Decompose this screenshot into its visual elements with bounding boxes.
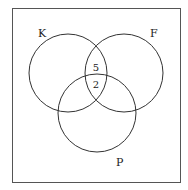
set-f-circle	[85, 34, 163, 112]
region-k-f-value: 5	[93, 62, 99, 73]
set-f-label: F	[150, 27, 158, 40]
region-k-f-p-value: 2	[93, 79, 99, 90]
set-k-circle	[29, 34, 107, 112]
venn-diagram: K F P 5 2	[0, 0, 188, 190]
set-k-label: K	[38, 27, 47, 40]
set-p-label: P	[116, 156, 124, 169]
